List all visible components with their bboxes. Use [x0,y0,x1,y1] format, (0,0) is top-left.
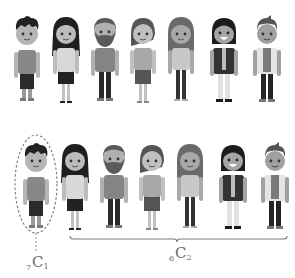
label-left-pre: 7 [26,263,31,272]
person-boy-spiky-hair [23,143,49,228]
person-man-white-coat [261,142,289,229]
person-smiling-man-jacket [210,18,238,102]
diagram-canvas [0,0,295,278]
underbrace [70,236,287,242]
person-bearded-man [100,145,128,228]
label-right-pre: 6 [169,254,174,263]
label-left-main: C [32,253,43,271]
person-bearded-man [91,18,119,101]
label-6c2: 6C2 [169,246,192,261]
person-woman-long-hair [168,17,194,101]
person-smiling-man-jacket [219,145,247,229]
bottom-row [23,142,289,230]
person-girl-long-hair [61,144,89,230]
person-woman-skirt [139,145,165,230]
top-row [14,15,281,103]
person-woman-skirt [130,18,156,103]
person-man-white-coat [253,15,281,102]
label-right-main: C [175,244,186,262]
person-boy-spiky-hair [14,16,40,101]
person-girl-long-hair [52,17,80,103]
label-7c1: 7C1 [26,255,49,270]
label-right-sub: 2 [187,253,192,262]
label-left-sub: 1 [44,262,49,271]
person-woman-long-hair [177,144,203,228]
